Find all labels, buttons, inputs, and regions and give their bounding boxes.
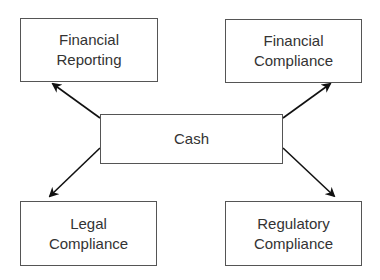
node-label-line2: Compliance — [254, 234, 333, 254]
node-label-line2: Compliance — [254, 51, 333, 71]
arrow-to-financial-reporting — [53, 84, 100, 118]
node-legal-compliance: Legal Compliance — [20, 201, 157, 266]
node-cash: Cash — [100, 114, 283, 164]
node-financial-reporting: Financial Reporting — [20, 18, 158, 82]
node-label-line2: Reporting — [56, 50, 121, 70]
node-regulatory-compliance: Regulatory Compliance — [225, 201, 362, 266]
arrow-to-financial-compliance — [283, 84, 330, 118]
node-financial-compliance: Financial Compliance — [225, 19, 362, 83]
arrow-to-regulatory-compliance — [283, 148, 334, 196]
node-label-line1: Financial — [59, 30, 119, 50]
arrow-to-legal-compliance — [50, 148, 100, 196]
node-label-line1: Regulatory — [257, 214, 330, 234]
node-label-line1: Financial — [263, 31, 323, 51]
center-label: Cash — [174, 129, 209, 149]
node-label-line2: Compliance — [49, 234, 128, 254]
node-label-line1: Legal — [70, 214, 107, 234]
